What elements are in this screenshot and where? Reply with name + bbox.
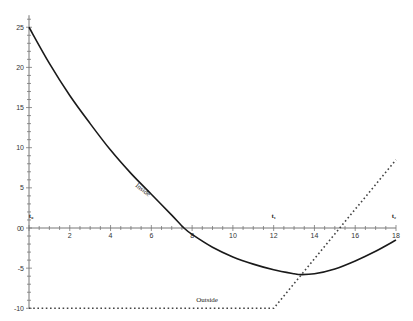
annotation-label: t₁ bbox=[271, 212, 275, 220]
series-outside-line bbox=[29, 160, 396, 309]
annotation-label: t₀ bbox=[29, 212, 33, 220]
line-chart: 2520151050-5-10 246810121416180 InsideOu… bbox=[0, 0, 413, 321]
y-tick-label: 25 bbox=[16, 24, 24, 31]
y-tick-label: 5 bbox=[20, 184, 24, 191]
series-inside-line bbox=[29, 27, 396, 274]
y-tick-label: -10 bbox=[14, 305, 24, 312]
x-tick-label: 18 bbox=[392, 232, 400, 239]
x-tick-label: 14 bbox=[311, 232, 319, 239]
series-group bbox=[29, 27, 396, 308]
origin-label: 0 bbox=[17, 225, 21, 232]
y-tick-label: -5 bbox=[18, 265, 24, 272]
x-tick-label: 10 bbox=[229, 232, 237, 239]
x-tick-label: 4 bbox=[109, 232, 113, 239]
annotation-label: t₂ bbox=[392, 212, 396, 220]
x-axis: 246810121416180 bbox=[17, 225, 400, 239]
x-tick-label: 16 bbox=[351, 232, 359, 239]
x-tick-label: 6 bbox=[149, 232, 153, 239]
annotations-group: InsideOutsidet₀t₁t₂ bbox=[29, 182, 396, 304]
annotation-label: Inside bbox=[134, 182, 152, 199]
y-axis: 2520151050-5-10 bbox=[14, 15, 32, 312]
y-tick-label: 15 bbox=[16, 104, 24, 111]
y-tick-label: 10 bbox=[16, 144, 24, 151]
x-tick-label: 2 bbox=[68, 232, 72, 239]
y-tick-label: 20 bbox=[16, 64, 24, 71]
x-tick-label: 12 bbox=[270, 232, 278, 239]
annotation-label: Outside bbox=[196, 296, 218, 304]
